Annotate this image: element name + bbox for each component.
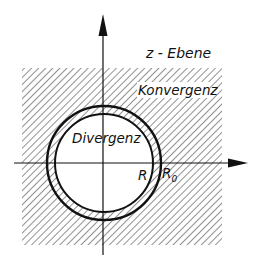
real-axis-arrow-icon	[228, 159, 248, 168]
z-plane-diagram: z - Ebene Konvergenz Divergenz R R0	[0, 0, 259, 271]
imaginary-axis-arrow-icon	[99, 14, 108, 36]
convergence-label: Konvergenz	[138, 82, 218, 98]
radius-R0-subscript: 0	[171, 174, 177, 184]
plane-label: z - Ebene	[145, 45, 211, 61]
divergence-label: Divergenz	[72, 130, 141, 146]
radius-R-label: R	[138, 167, 147, 183]
radius-R0-base: R	[162, 165, 171, 181]
